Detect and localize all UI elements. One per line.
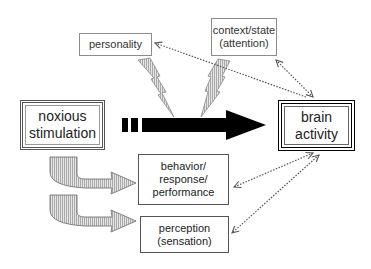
context-state-label: context/state (attention) (213, 24, 275, 50)
main-arrow-icon (122, 110, 266, 140)
noxious-stimulation-label: noxious stimulation (29, 108, 96, 142)
curved-arrow-icon-perception (50, 195, 136, 232)
dotted-arrow-brain-behavior (234, 153, 313, 187)
lightning-bolt-icon-context (201, 59, 230, 117)
dotted-arrow-brain-context (276, 60, 313, 97)
behavior-response-node: behavior/ response/ performance (138, 154, 229, 205)
lightning-bolt-icon-personality (138, 58, 174, 117)
behavior-response-label: behavior/ response/ performance (153, 160, 215, 199)
dotted-arrow-brain-perception (232, 155, 319, 233)
noxious-stimulation-node: noxious stimulation (20, 100, 105, 150)
brain-activity-label: brain activity (295, 109, 338, 143)
curved-arrow-icon-behavior (50, 157, 136, 194)
diagram-canvas: personality context/state (attention) no… (0, 0, 371, 269)
context-state-node: context/state (attention) (211, 18, 277, 56)
brain-activity-node: brain activity (278, 100, 355, 151)
perception-node: perception (sensation) (140, 216, 229, 253)
personality-label: personality (89, 38, 142, 51)
perception-label: perception (sensation) (157, 222, 211, 248)
personality-node: personality (79, 33, 152, 56)
